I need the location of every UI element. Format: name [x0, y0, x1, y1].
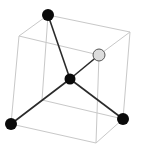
cube-edge-top_back_left-bottom_back_left — [42, 15, 48, 100]
cube-edge-top_front_left-bottom_front_left — [11, 36, 19, 124]
bond-center-bottom-left — [11, 79, 70, 124]
atom-bottom-left-icon — [5, 118, 17, 130]
atom-bottom-right-icon — [117, 113, 129, 125]
cube-edge-top_back_right-bottom_back_right — [123, 32, 130, 119]
cube-edge-bottom_front_right-bottom_front_left — [11, 124, 96, 143]
atom-top-icon — [42, 9, 54, 21]
atom-center-icon — [65, 74, 76, 85]
cube-edge-top_back_left-top_back_right — [48, 15, 130, 32]
molecule-cube-diagram — [0, 0, 142, 153]
bonds — [11, 15, 123, 124]
atom-right-upper-icon — [93, 49, 105, 61]
